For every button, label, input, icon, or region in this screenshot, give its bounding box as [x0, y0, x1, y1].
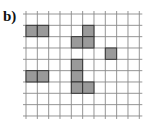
shaded-cell	[71, 71, 82, 82]
square-grid	[0, 0, 149, 129]
shaded-cell	[83, 25, 94, 36]
shaded-cell	[37, 71, 48, 82]
shaded-cell	[71, 37, 82, 48]
shaded-cell	[37, 25, 48, 36]
shaded-cell	[26, 25, 37, 36]
shaded-cell	[83, 37, 94, 48]
shaded-cell	[105, 48, 116, 59]
shaded-cell	[71, 82, 82, 93]
shaded-cell	[71, 59, 82, 70]
shaded-cell	[26, 71, 37, 82]
shaded-cell	[83, 82, 94, 93]
